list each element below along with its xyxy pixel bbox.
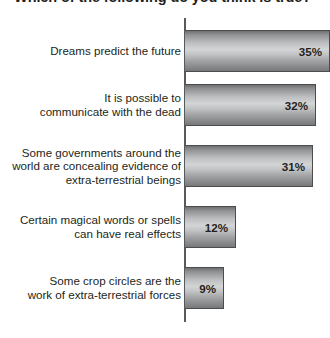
bar: 12% <box>185 206 236 248</box>
chart-title: Which of the following do you think is t… <box>0 0 325 5</box>
bar-category-label: Some crop circles are thework of extra-t… <box>11 274 181 301</box>
bar-category-label: Some governments around theworld are con… <box>11 146 181 187</box>
bar-row: Dreams predict the future 35% <box>0 30 325 72</box>
bar-category-label: It is possible tocommunicate with the de… <box>11 91 181 118</box>
bar: 35% <box>185 30 330 72</box>
bar-value-label: 12% <box>205 221 228 234</box>
bar-row: Some crop circles are thework of extra-t… <box>0 267 325 309</box>
bar-value-label: 31% <box>282 160 305 173</box>
plot-area: Dreams predict the future 35% It is poss… <box>0 18 325 323</box>
bar-category-label: Certain magical words or spellscan have … <box>11 213 181 240</box>
bar-row: Certain magical words or spellscan have … <box>0 206 325 248</box>
bar-row: Some governments around theworld are con… <box>0 145 325 187</box>
bar: 9% <box>185 267 224 309</box>
bar-row: It is possible tocommunicate with the de… <box>0 84 325 126</box>
bar-category-label: Dreams predict the future <box>11 44 181 58</box>
bar-value-label: 9% <box>199 282 216 295</box>
bar-value-label: 35% <box>299 45 322 58</box>
bar: 31% <box>185 145 313 187</box>
bar-value-label: 32% <box>285 99 308 112</box>
bar: 32% <box>185 84 316 126</box>
